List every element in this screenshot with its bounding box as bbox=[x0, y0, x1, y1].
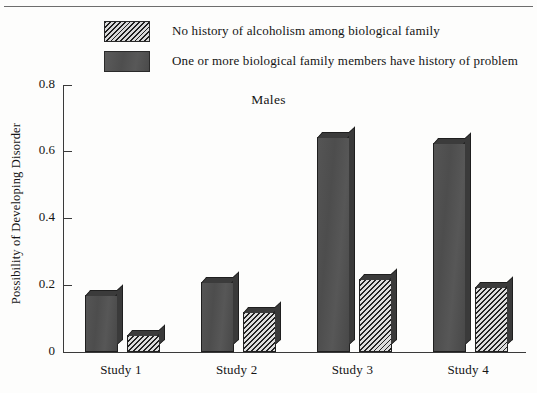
bar-group-3 bbox=[295, 85, 411, 352]
bar-group-1 bbox=[63, 85, 179, 352]
bar-study-3-solid bbox=[317, 137, 350, 352]
y-tick-label-0: 0 bbox=[21, 343, 55, 359]
y-tick-label-0.8: 0.8 bbox=[21, 76, 55, 92]
x-axis-label-1: Study 1 bbox=[63, 362, 179, 378]
bar-study-3-hatch bbox=[359, 279, 392, 352]
bar-study-4-hatch bbox=[475, 287, 508, 352]
x-axis-label-2: Study 2 bbox=[179, 362, 295, 378]
bar-group-2 bbox=[179, 85, 295, 352]
bar-study-2-hatch bbox=[243, 312, 276, 352]
y-tick-label-0.4: 0.4 bbox=[21, 209, 55, 225]
bar-study-2-solid bbox=[201, 282, 234, 352]
x-axis-label-4: Study 4 bbox=[410, 362, 526, 378]
x-axis-label-3: Study 3 bbox=[295, 362, 411, 378]
plot-area: Males Possibility of Developing Disorder… bbox=[0, 0, 537, 393]
bar-group-4 bbox=[410, 85, 526, 352]
bars-layer bbox=[63, 85, 526, 352]
bar-study-1-hatch bbox=[127, 335, 160, 352]
chart-page: No history of alcoholism among biologica… bbox=[0, 0, 537, 393]
bar-study-4-solid bbox=[433, 143, 466, 352]
y-tick-label-0.6: 0.6 bbox=[21, 142, 55, 158]
x-axis-line bbox=[63, 352, 526, 353]
y-tick-label-0.2: 0.2 bbox=[21, 276, 55, 292]
bar-study-1-solid bbox=[85, 295, 118, 352]
